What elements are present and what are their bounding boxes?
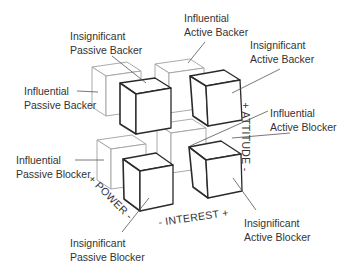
label-influential-passive-backer: Influential Passive Backer <box>24 84 96 112</box>
label-influential-active-backer: Influential Active Backer <box>184 11 248 39</box>
cube-insignificant-active-backer <box>190 70 242 126</box>
label-insignificant-passive-blocker: Insignificant Passive Blocker <box>70 236 145 264</box>
axis-attitude: + ATTITUDE - <box>240 102 252 171</box>
cube-insignificant-passive-backer <box>120 78 171 134</box>
stakeholder-cube-diagram: Insignificant Passive Backer Influential… <box>0 0 352 275</box>
label-insignificant-passive-backer: Insignificant Passive Backer <box>70 29 142 57</box>
label-insignificant-active-backer: Insignificant Active Backer <box>250 38 314 66</box>
label-insignificant-active-blocker: Insignificant Active Blocker <box>244 216 311 244</box>
label-influential-passive-blocker: Influential Passive Blocker <box>16 153 91 181</box>
cube-insignificant-passive-blocker <box>123 153 173 211</box>
label-influential-active-blocker: Influential Active Blocker <box>270 106 337 134</box>
cube-insignificant-active-blocker <box>189 141 242 198</box>
